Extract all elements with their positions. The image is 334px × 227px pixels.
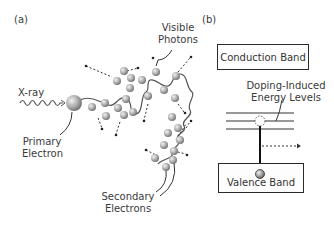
doping-levels-label: Doping-Induced Energy Levels: [244, 80, 328, 104]
primary-electron-ball: [66, 95, 82, 111]
valence-band-label: Valence Band: [227, 177, 295, 188]
panel-a-label: (a): [14, 14, 28, 26]
secondary-electron-balls: [88, 67, 184, 171]
conduction-band-label: Conduction Band: [220, 52, 306, 63]
valence-band-box: Valence Band: [218, 163, 304, 193]
conduction-band-box: Conduction Band: [217, 44, 309, 70]
secondary-electrons-label: Secondary Electrons: [100, 191, 156, 215]
xray-label: X-ray: [18, 87, 44, 99]
visible-photons-label: Visible Photons: [155, 22, 201, 46]
panel-b-label: (b): [202, 14, 216, 26]
primary-electron-label: Primary Electron: [22, 136, 62, 160]
xray-wave: [20, 101, 63, 106]
